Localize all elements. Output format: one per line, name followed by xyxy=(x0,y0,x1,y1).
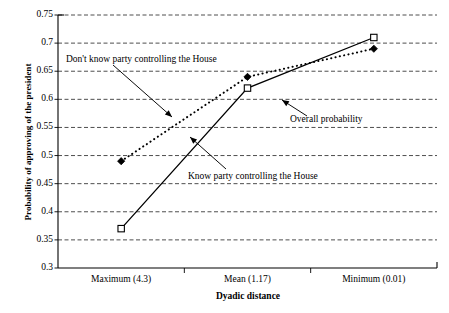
y-axis-tick-label: 0.35 xyxy=(36,235,53,245)
x-axis-title: Dyadic distance xyxy=(58,291,438,301)
plot-area: 0.750.70.650.60.550.50.450.40.350.3Maxim… xyxy=(58,15,437,268)
y-axis-tick-label: 0.75 xyxy=(36,10,53,20)
y-axis-tick-label: 0.4 xyxy=(41,207,53,217)
y-axis-tick-label: 0.6 xyxy=(41,95,53,105)
x-axis-tick-label: Maximum (4.3) xyxy=(91,275,151,285)
x-axis-tick-label: Minimum (0.01) xyxy=(342,275,405,285)
y-axis-tick-label: 0.7 xyxy=(41,38,53,48)
y-axis-tick-label: 0.65 xyxy=(36,66,53,76)
y-axis-tick-label: 0.45 xyxy=(36,179,53,189)
y-axis-tick-label: 0.55 xyxy=(36,123,53,133)
chart-container: Probability of approving of the presiden… xyxy=(0,0,449,313)
y-axis-title: Probability of approving of the presiden… xyxy=(23,12,33,272)
x-axis-tick-label: Mean (1.17) xyxy=(224,275,271,285)
y-axis-tick-label: 0.3 xyxy=(41,263,53,273)
annotation-know-party: Know party controlling the House xyxy=(188,172,318,182)
annotation-overall-probability: Overall probability xyxy=(290,115,363,125)
y-axis-tick-label: 0.5 xyxy=(41,151,53,161)
annotation-dont-know-party: Don't know party controlling the House xyxy=(66,55,217,65)
